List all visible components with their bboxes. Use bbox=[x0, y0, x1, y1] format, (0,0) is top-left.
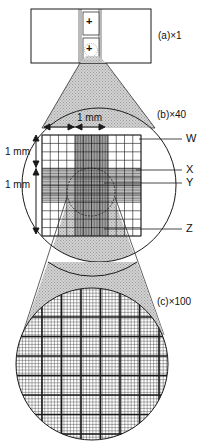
panel-label-a: (a)×1 bbox=[158, 31, 182, 41]
callout-x: X bbox=[186, 164, 193, 175]
magnified-view-c bbox=[16, 288, 170, 441]
callout-z: Z bbox=[186, 223, 193, 234]
dimension-vertical-top-label: 1 mm bbox=[5, 147, 30, 157]
panel-label-c: (c)×100 bbox=[157, 297, 191, 307]
slide-well-mark-bottom: + bbox=[86, 43, 92, 54]
dimension-vertical-bottom-label: 1 mm bbox=[5, 180, 30, 190]
dimension-horizontal-label: 1 mm bbox=[77, 113, 102, 123]
panel-label-b: (b)×40 bbox=[157, 110, 186, 120]
callout-w: W bbox=[186, 133, 196, 144]
callout-y: Y bbox=[186, 177, 193, 188]
slide-well-mark-top: + bbox=[86, 16, 92, 27]
hemocytometer-diagram bbox=[0, 0, 199, 441]
